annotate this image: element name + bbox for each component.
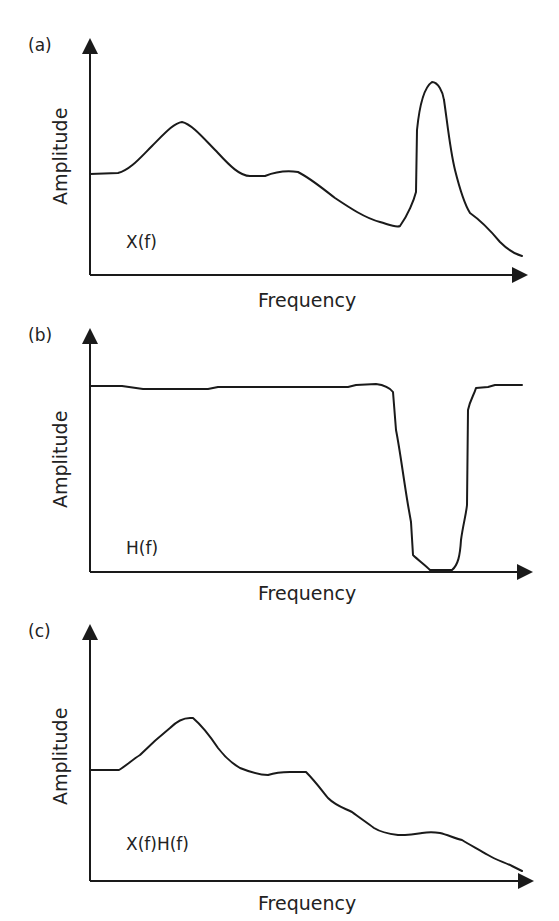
panel-a-xlabel: Frequency <box>258 289 356 311</box>
panel-b-ylabel: Amplitude <box>49 411 71 508</box>
panel-a-curve <box>90 82 522 256</box>
panel-b-x-arrow-icon <box>517 564 533 580</box>
panel-c: (c) Amplitude Frequency X(f)H(f) <box>28 621 534 914</box>
panel-b-xlabel: Frequency <box>258 582 356 604</box>
panel-a: (a) Amplitude Frequency X(f) <box>28 35 528 311</box>
panel-c-xlabel: Frequency <box>258 892 356 914</box>
panel-a-label: (a) <box>28 35 52 55</box>
panel-a-curve-label: X(f) <box>126 232 157 252</box>
panel-c-x-arrow-icon <box>518 873 534 889</box>
panel-c-y-arrow-icon <box>82 624 98 640</box>
panel-b-curve-label: H(f) <box>126 538 158 558</box>
panel-b-label: (b) <box>28 325 52 345</box>
panel-c-curve-label: X(f)H(f) <box>126 834 189 854</box>
panel-b: (b) Amplitude Frequency H(f) <box>28 325 533 604</box>
panel-b-y-arrow-icon <box>82 328 98 344</box>
panel-c-ylabel: Amplitude <box>49 708 71 805</box>
panel-a-ylabel: Amplitude <box>49 108 71 205</box>
figure-canvas: (a) Amplitude Frequency X(f) (b) Amplitu… <box>0 0 559 921</box>
panel-a-y-arrow-icon <box>82 38 98 54</box>
panel-a-x-arrow-icon <box>512 267 528 283</box>
panel-c-label: (c) <box>28 621 51 641</box>
